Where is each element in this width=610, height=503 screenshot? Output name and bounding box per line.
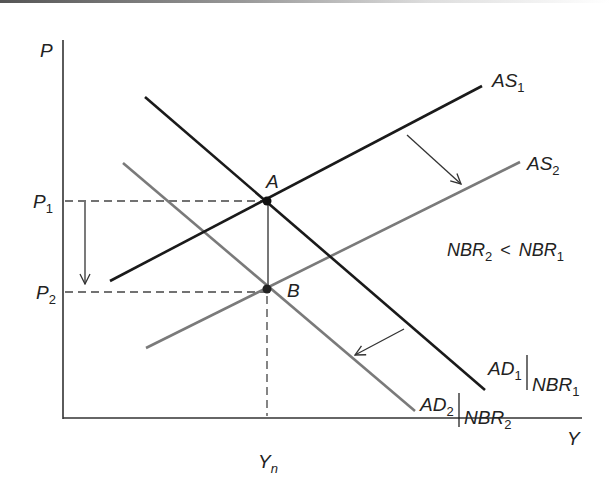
guide-lines (65, 201, 267, 416)
svg-text:AD2: AD2 (419, 394, 454, 419)
yn-label: Yn (258, 451, 278, 476)
as2-label: AS2 (526, 153, 560, 178)
ad-as-diagram: P Y P1 P2 Yn A B AS1 AS2 AD1 NBR1 AD2 NB… (0, 0, 610, 503)
point-b-dot (263, 285, 272, 294)
p2-label: P2 (36, 282, 56, 307)
as-shift-arrow (407, 135, 461, 184)
ad1-curve (145, 97, 485, 390)
ad2-label: AD2 NBR2 (419, 393, 511, 432)
as1-label: AS1 (491, 70, 525, 95)
ad-shift-arrow (355, 329, 404, 355)
ad1-label: AD1 NBR1 (487, 355, 579, 399)
point-b-label: B (287, 280, 300, 301)
svg-text:NBR2: NBR2 (464, 407, 511, 432)
point-a-dot (263, 197, 272, 206)
y-axis-label: P (40, 40, 53, 61)
svg-text:NBR1: NBR1 (532, 374, 579, 399)
nbr-comparison-annotation: NBR2<NBR1 (447, 240, 564, 264)
point-a-label: A (265, 171, 279, 192)
p1-label: P1 (33, 191, 53, 216)
x-axis-label: Y (567, 428, 581, 449)
svg-text:AD1: AD1 (487, 358, 522, 383)
